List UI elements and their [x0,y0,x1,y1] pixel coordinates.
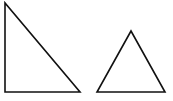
background [0,0,173,101]
diagram-canvas [0,0,173,101]
